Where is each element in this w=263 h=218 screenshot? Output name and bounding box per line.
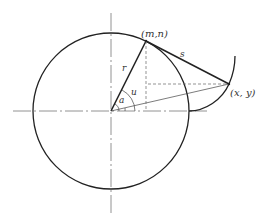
- label-point-mn: (m,n): [141, 28, 168, 39]
- involute-diagram: (m,n) (x, y) r s u a: [0, 0, 263, 218]
- center-to-point-line: [111, 84, 229, 111]
- point-xy-marker: [228, 83, 230, 85]
- point-mn-marker: [145, 40, 147, 42]
- label-arc-length: s: [180, 49, 185, 59]
- label-angle-u: u: [131, 87, 137, 97]
- radius-line: [111, 41, 146, 111]
- label-radius: r: [122, 63, 127, 73]
- tangent-line: [146, 41, 229, 84]
- label-point-xy: (x, y): [230, 87, 256, 98]
- label-angle-a: a: [119, 95, 124, 105]
- diagram-canvas: (m,n) (x, y) r s u a: [0, 0, 263, 218]
